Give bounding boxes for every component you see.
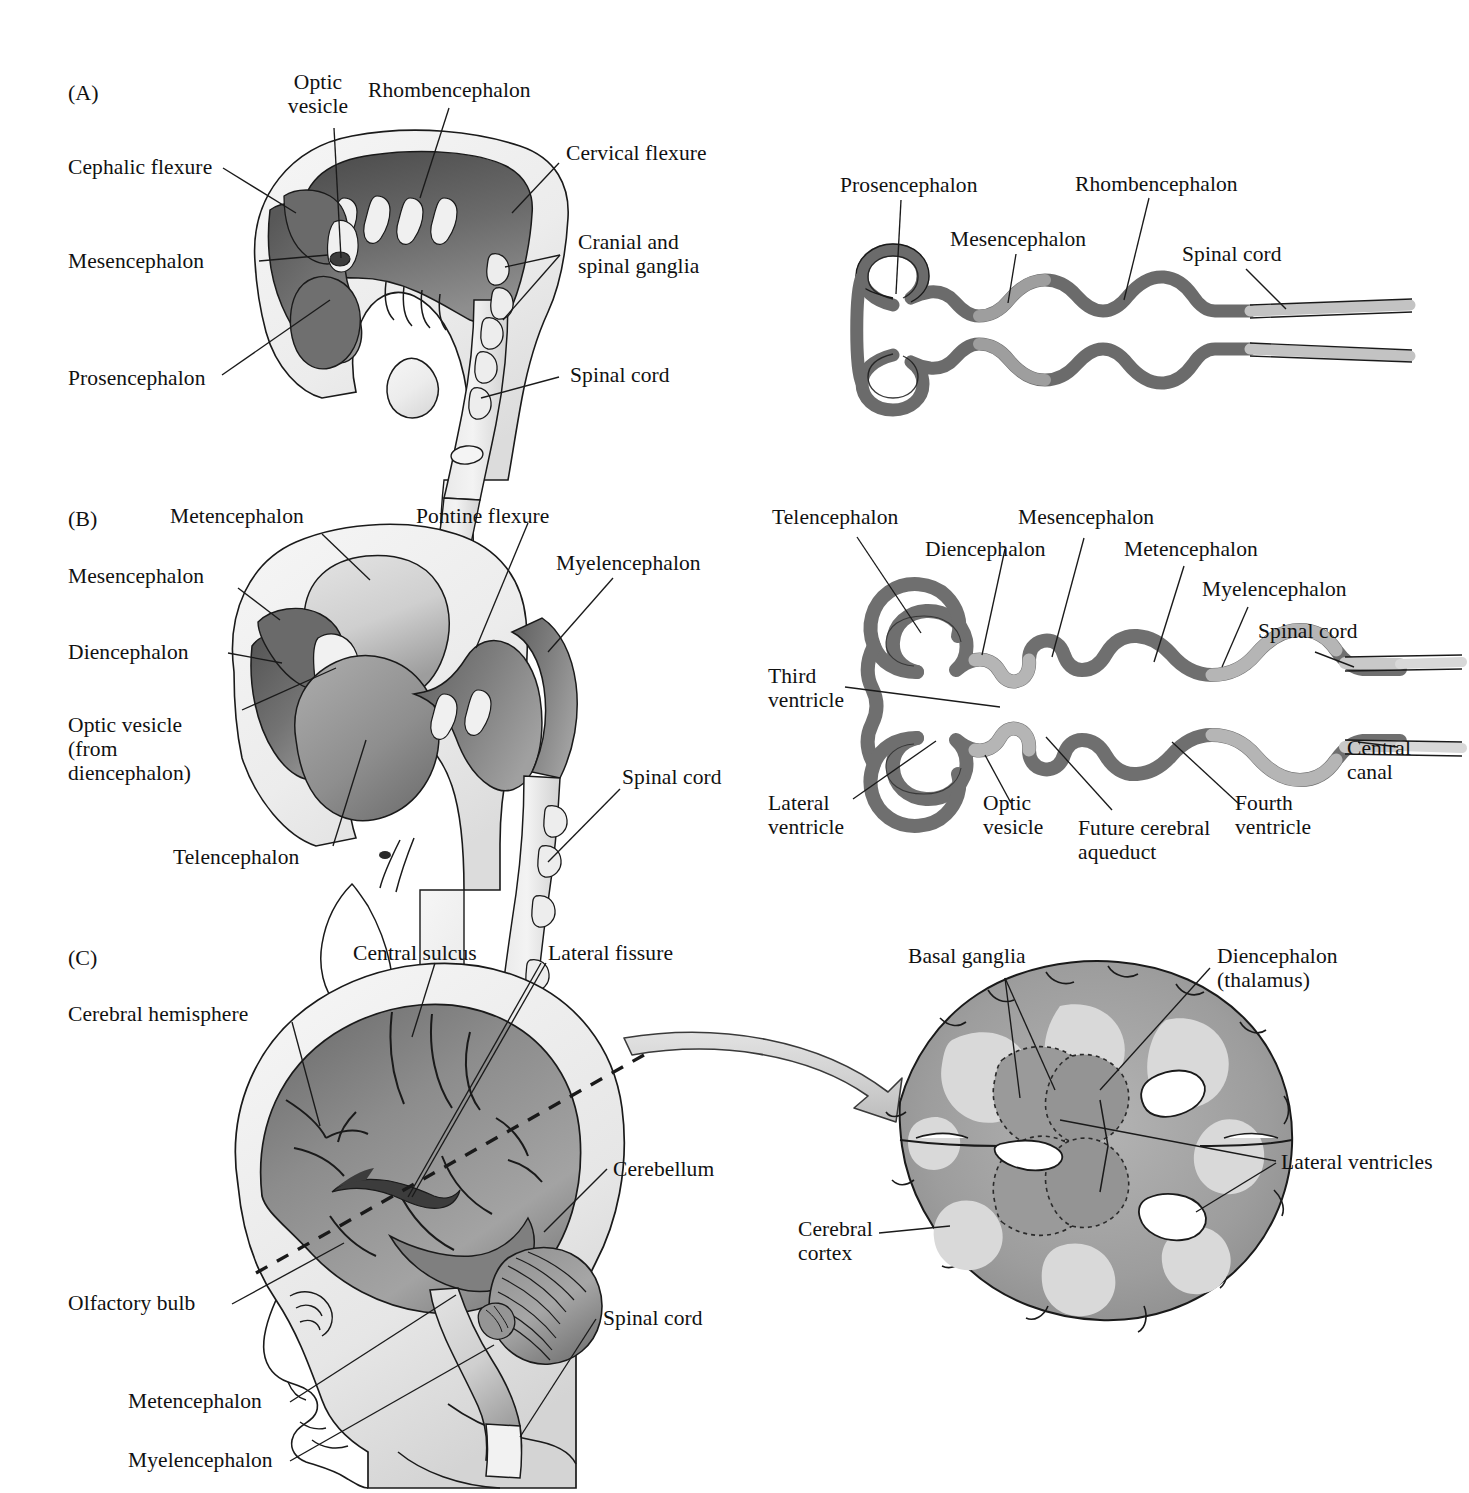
label-cervical-flexure-a: Cervical flexure	[566, 141, 707, 165]
panelC-axial-section	[886, 961, 1292, 1332]
label-central-canal-b: Central canal	[1347, 736, 1411, 784]
label-cerebellum-c: Cerebellum	[613, 1157, 714, 1181]
label-tube-rhombencephalon-a: Rhombencephalon	[1075, 172, 1238, 196]
label-rhombencephalon-a: Rhombencephalon	[368, 78, 531, 102]
label-diencephalon-b: Diencephalon	[68, 640, 189, 664]
label-central-sulcus-c: Central sulcus	[353, 941, 477, 965]
panelC-head-leader-lines	[232, 963, 607, 1461]
label-tube-prosencephalon-a: Prosencephalon	[840, 173, 978, 197]
label-cerebral-hemisphere-c: Cerebral hemisphere	[68, 1002, 248, 1026]
label-cranial-spinal-ganglia-a: Cranial and spinal ganglia	[578, 230, 699, 278]
label-tube-mesencephalon-b: Mesencephalon	[1018, 505, 1154, 529]
label-spinal-cord-c: Spinal cord	[603, 1306, 703, 1330]
panelC-section-leader-lines	[879, 968, 1276, 1233]
label-optic-vesicle-tube-b: Optic vesicle	[983, 791, 1043, 839]
label-tube-mesencephalon-a: Mesencephalon	[950, 227, 1086, 251]
panelB-tube-schematic	[868, 584, 1462, 826]
label-optic-vesicle-a: Optic vesicle	[254, 70, 382, 118]
figure-artwork	[0, 0, 1469, 1493]
label-cerebral-cortex-c: Cerebral cortex	[798, 1217, 873, 1265]
label-fourth-ventricle-b: Fourth ventricle	[1235, 791, 1311, 839]
label-pontine-flexure-b: Pontine flexure	[416, 504, 549, 528]
label-tube-telencephalon-b: Telencephalon	[772, 505, 898, 529]
panel-a-letter: (A)	[68, 80, 99, 106]
panelA-leader-lines	[222, 108, 560, 398]
label-tube-myelencephalon-b: Myelencephalon	[1202, 577, 1347, 601]
label-lateral-fissure-c: Lateral fissure	[548, 941, 673, 965]
panelB-embryo-illustration	[232, 524, 577, 1093]
label-tube-spinal-cord-a: Spinal cord	[1182, 242, 1282, 266]
label-tube-spinal-cord-b: Spinal cord	[1258, 619, 1358, 643]
label-prosencephalon-a: Prosencephalon	[68, 366, 206, 390]
label-lateral-ventricles-c: Lateral ventricles	[1281, 1150, 1433, 1174]
label-cephalic-flexure-a: Cephalic flexure	[68, 155, 212, 179]
panel-c-letter: (C)	[68, 945, 97, 971]
label-diencephalon-thalamus-c: Diencephalon (thalamus)	[1217, 944, 1338, 992]
label-spinal-cord-a: Spinal cord	[570, 363, 670, 387]
panelA-neural-tube-schematic	[856, 244, 1412, 410]
label-optic-vesicle-b: Optic vesicle (from diencephalon)	[68, 713, 191, 785]
label-tube-diencephalon-b: Diencephalon	[925, 537, 1046, 561]
label-lateral-ventricle-b: Lateral ventricle	[768, 791, 844, 839]
label-mesencephalon-b: Mesencephalon	[68, 564, 204, 588]
panel-b-letter: (B)	[68, 506, 97, 532]
brain-development-figure: (A) Optic vesicle Rhombencephalon Cephal…	[0, 0, 1469, 1493]
panelC-head-illustration	[235, 963, 660, 1488]
label-myelencephalon-b: Myelencephalon	[556, 551, 701, 575]
label-metencephalon-c: Metencephalon	[128, 1389, 262, 1413]
label-telencephalon-b: Telencephalon	[173, 845, 299, 869]
label-mesencephalon-a: Mesencephalon	[68, 249, 204, 273]
label-tube-metencephalon-b: Metencephalon	[1124, 537, 1258, 561]
panelA-embryo-illustration	[255, 130, 569, 690]
label-olfactory-bulb-c: Olfactory bulb	[68, 1291, 195, 1315]
label-basal-ganglia-c: Basal ganglia	[908, 944, 1026, 968]
section-pointer-arrow	[624, 1032, 902, 1122]
label-third-ventricle-b: Third ventricle	[768, 664, 844, 712]
label-future-cerebral-aqueduct-b: Future cerebral aqueduct	[1078, 816, 1210, 864]
label-metencephalon-b: Metencephalon	[170, 504, 304, 528]
label-spinal-cord-b: Spinal cord	[622, 765, 722, 789]
label-myelencephalon-c: Myelencephalon	[128, 1448, 273, 1472]
